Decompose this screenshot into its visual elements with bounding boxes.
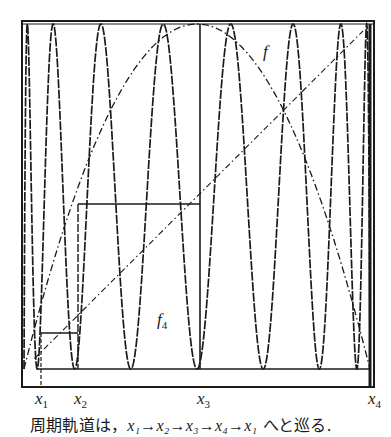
x1-label: x1 <box>35 389 48 410</box>
label-f: f <box>263 42 268 62</box>
x3-label: x3 <box>197 389 210 410</box>
cobweb-diagram <box>0 0 391 437</box>
caption-orbit: x₁→x₂→x₃→x₄→x₁ <box>127 417 257 434</box>
diagonal-line <box>34 31 363 359</box>
caption-suffix: へと巡る. <box>257 416 331 435</box>
label-f4: f4 <box>157 310 167 331</box>
figure-caption: 周期軌道は，x₁→x₂→x₃→x₄→x₁ へと巡る. <box>30 412 332 436</box>
x2-label: x2 <box>74 389 87 410</box>
caption-prefix: 周期軌道は， <box>30 416 127 435</box>
x4-label: x4 <box>368 389 381 410</box>
